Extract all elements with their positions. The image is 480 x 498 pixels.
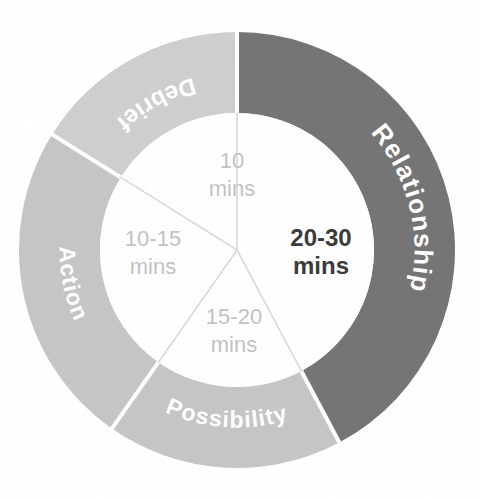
duration-unit: mins <box>293 252 349 279</box>
duration-value: 15-20 <box>206 304 262 329</box>
donut-chart: RelationshipPossibilityActionDebrief 20-… <box>0 0 480 498</box>
duration-value: 10 <box>220 148 244 173</box>
duration-value: 10-15 <box>125 226 181 251</box>
duration-unit: mins <box>209 176 255 201</box>
donut-chart-svg: RelationshipPossibilityActionDebrief 20-… <box>0 0 480 498</box>
duration-label-relationship: 20-30mins <box>290 224 351 279</box>
duration-unit: mins <box>130 254 176 279</box>
duration-unit: mins <box>211 332 257 357</box>
duration-value: 20-30 <box>290 224 351 251</box>
